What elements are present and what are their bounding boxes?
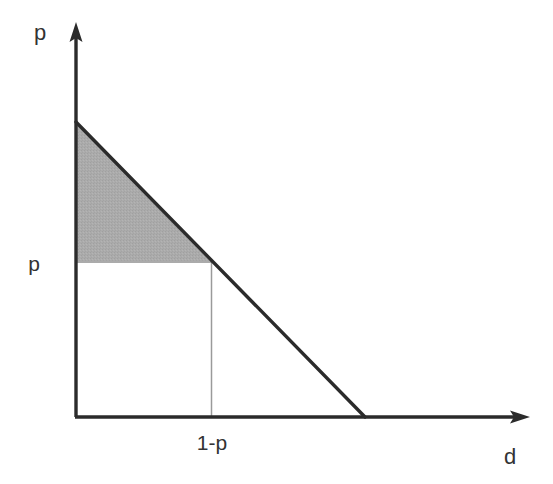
- horizontal-axis-label: d: [504, 444, 516, 469]
- y-tick-label-p: p: [28, 252, 40, 275]
- supply-demand-diagram: p p 1-p d: [0, 0, 553, 484]
- vertical-axis-label: p: [34, 20, 46, 45]
- diagram-canvas: p p 1-p d: [0, 0, 553, 484]
- x-tick-label-one-minus-p: 1-p: [197, 431, 227, 454]
